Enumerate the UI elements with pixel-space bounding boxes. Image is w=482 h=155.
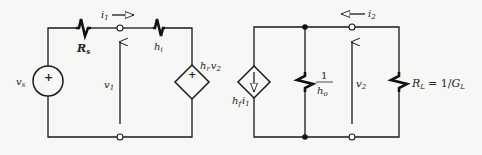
terminal-output-top [349,24,355,30]
label-hr-v2: hrv2 [200,60,221,73]
terminal-input-bottom [117,134,123,140]
label-rs: Rs [76,42,90,56]
label-1-over-ho: 1 ho [316,70,333,98]
plus-sign-hr: + [188,69,196,80]
terminal-output-bottom [349,134,355,140]
wire-right-bottom [123,99,192,137]
resistor-rl [391,72,407,92]
resistor-rs [76,19,91,36]
wire-left-bottom [48,96,117,137]
node-top [302,24,308,30]
wire-out-left-top [254,27,349,66]
output-circuit: i2 hfi1 1 ho v2 RL= 1/GL [232,8,465,140]
node-bottom [302,134,308,140]
terminal-input-top [117,25,123,31]
wire-out-right-bottom [355,92,399,137]
wire-out-right-top [355,27,399,72]
label-i1: i1 [101,9,109,22]
wire-left-top [48,28,76,66]
label-v1: v1 [104,79,114,92]
label-i2: i2 [368,8,376,21]
label-rl: RL= 1/GL [411,77,465,91]
resistor-1-over-ho [297,72,313,92]
circuit-diagram: + + Rs hi i1 vs v1 hrv2 [0,0,482,155]
wire-out-left-bottom [254,98,349,137]
label-vs: vs [16,76,26,89]
label-v2: v2 [356,78,367,91]
fraction-numerator: 1 [321,70,327,81]
fraction-denominator: ho [317,85,328,98]
plus-sign-vs: + [44,71,53,84]
label-hf-i1: hfi1 [232,95,250,108]
resistor-hi [153,19,165,36]
wire-top-right2 [165,28,192,65]
input-circuit: + + Rs hi i1 vs v1 hrv2 [16,9,221,140]
label-hi: hi [154,41,163,54]
